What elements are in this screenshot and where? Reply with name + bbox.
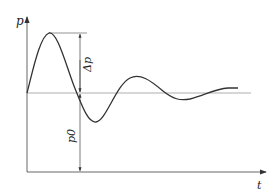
- pressure-time-diagram: p t Δp p0: [0, 0, 276, 195]
- diagram-svg: p t Δp p0: [0, 0, 276, 195]
- y-axis-label: p: [16, 14, 24, 28]
- x-axis-label: t: [257, 179, 262, 192]
- delta-p-label: Δp: [81, 57, 94, 73]
- p0-label: p0: [65, 129, 78, 143]
- pressure-curve: [27, 33, 238, 122]
